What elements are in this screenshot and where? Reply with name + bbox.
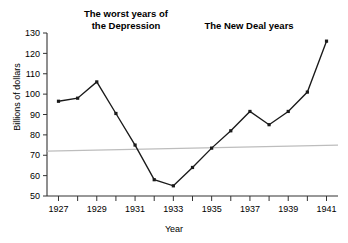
data-point-marker [114,112,117,115]
y-tick-label: 120 [25,49,40,59]
x-tick-label: 1929 [87,204,107,214]
x-tick-label: 1939 [278,204,298,214]
y-tick-label: 70 [30,150,40,160]
data-point-marker [133,143,136,146]
x-tick-label: 1927 [48,204,68,214]
data-point-marker [191,166,194,169]
data-point-marker [229,129,232,132]
y-tick-label: 60 [30,171,40,181]
y-tick-label: 80 [30,130,40,140]
x-tick-label: 1937 [240,204,260,214]
data-point-marker [76,97,79,100]
data-point-marker [306,90,309,93]
x-tick-label: 1933 [163,204,183,214]
data-point-marker [248,110,251,113]
data-point-marker [210,147,213,150]
data-point-marker [57,100,60,103]
data-point-marker [267,123,270,126]
y-tick-label: 130 [25,28,40,38]
y-tick-label: 100 [25,89,40,99]
x-tick-label: 1935 [202,204,222,214]
data-point-marker [95,80,98,83]
data-point-marker [172,184,175,187]
chart-container: The worst years of the Depression The Ne… [0,0,348,243]
y-tick-label: 90 [30,110,40,120]
trend-line [47,145,338,151]
x-tick-label: 1941 [316,204,336,214]
x-axis-ticks: 19271929193119331935193719391941 [48,196,336,214]
x-tick-label: 1931 [125,204,145,214]
data-point-marker [287,110,290,113]
y-axis-ticks: 5060708090100110120130 [25,28,47,201]
data-series-line [58,41,326,186]
y-tick-label: 50 [30,191,40,201]
plot-area: 5060708090100110120130 19271929193119331… [0,0,348,243]
data-point-markers [57,40,328,188]
data-point-marker [153,178,156,181]
data-point-marker [325,40,328,43]
y-tick-label: 110 [26,69,40,79]
